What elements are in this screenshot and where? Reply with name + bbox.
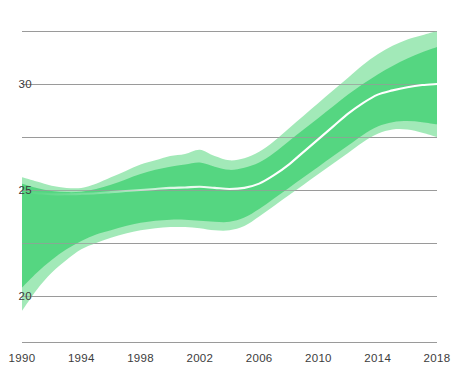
x-axis-tick-label: 1994 [59,352,103,364]
chart-plot-area [0,0,460,389]
y-axis-tick-label: 20 [0,290,32,302]
fan-chart: 302520 19901994199820022006201020142018 [0,0,460,389]
x-axis-tick-label: 1998 [119,352,163,364]
x-axis-tick-label: 2014 [356,352,400,364]
y-axis-tick-label: 30 [0,78,32,90]
x-axis-tick-label: 2018 [415,352,459,364]
x-axis-tick-label: 2006 [237,352,281,364]
x-axis-tick-label: 2002 [178,352,222,364]
x-axis-tick-label: 1990 [0,352,44,364]
y-axis-tick-label: 25 [0,184,32,196]
x-axis-tick-label: 2010 [296,352,340,364]
